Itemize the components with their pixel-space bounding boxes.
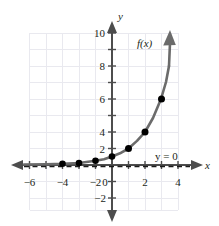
y-tick-label-10: 10 xyxy=(94,27,106,39)
y-tick-label-2: 2 xyxy=(100,143,106,155)
exponential-function-plot: −6 −4 −2 0 2 4 10 8 6 4 2 −2 y x f(x) y … xyxy=(0,0,219,226)
y-tick-label-8: 8 xyxy=(100,60,106,72)
y-axis-bottom-arrow xyxy=(107,210,117,222)
data-point xyxy=(125,145,132,152)
y-axis-label: y xyxy=(117,10,123,22)
x-tick-label--2: −2 xyxy=(90,176,102,188)
x-axis-label: x xyxy=(204,159,210,171)
data-point xyxy=(76,160,83,167)
data-point xyxy=(142,129,149,136)
y-tick-label--2: −2 xyxy=(94,192,106,204)
y-axis-top-arrow xyxy=(107,21,117,33)
graph-figure: −6 −4 −2 0 2 4 10 8 6 4 2 −2 y x f(x) y … xyxy=(0,0,219,226)
data-point xyxy=(59,161,66,168)
x-tick-label--6: −6 xyxy=(24,176,36,188)
y-tick-label-6: 6 xyxy=(100,93,106,105)
y-tick-label-4: 4 xyxy=(100,126,106,138)
x-axis-left-arrow xyxy=(11,160,23,170)
x-tick-label-0: 0 xyxy=(102,176,108,188)
asymptote-label: y = 0 xyxy=(155,150,178,162)
x-axis-right-arrow xyxy=(191,160,203,170)
y-axis xyxy=(107,21,117,222)
data-point xyxy=(92,158,99,165)
data-point xyxy=(158,96,165,103)
data-point xyxy=(109,153,116,160)
function-label: f(x) xyxy=(137,37,153,50)
x-tick-label--4: −4 xyxy=(57,176,69,188)
x-tick-label-2: 2 xyxy=(142,176,148,188)
x-tick-label-4: 4 xyxy=(175,176,181,188)
